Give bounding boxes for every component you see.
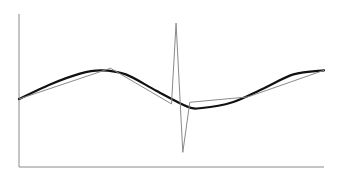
noisy-polyline-series [19, 23, 324, 152]
line-chart [0, 0, 344, 173]
